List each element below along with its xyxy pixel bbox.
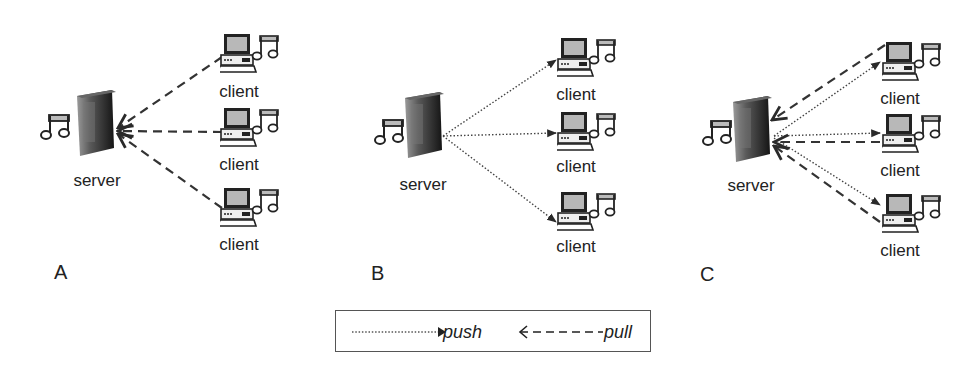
client-label: client	[545, 158, 607, 175]
legend-box: push pull	[335, 310, 651, 352]
client-label: client	[545, 86, 607, 103]
panel-c-pull-lines	[772, 45, 885, 222]
server-label: server	[62, 172, 132, 189]
desktop-computer-icon	[557, 190, 619, 234]
server-tower-icon	[72, 88, 118, 160]
client-label: client	[208, 83, 270, 100]
server-tower-icon	[728, 94, 774, 166]
client-label: client	[208, 236, 270, 253]
server-label: server	[388, 176, 458, 193]
panel-letter: A	[54, 262, 67, 282]
legend-pull-label: pull	[604, 323, 632, 341]
server-tower-icon	[400, 90, 446, 162]
server-label: server	[716, 177, 786, 194]
music-note-icon	[40, 112, 72, 142]
desktop-computer-icon	[882, 192, 944, 236]
client-label: client	[869, 162, 931, 179]
desktop-computer-icon	[220, 32, 282, 76]
panel-letter: B	[371, 263, 384, 283]
client-label: client	[208, 156, 270, 173]
desktop-computer-icon	[220, 106, 282, 150]
client-label: client	[869, 242, 931, 259]
desktop-computer-icon	[557, 110, 619, 154]
pull-arrow-icon	[517, 323, 607, 341]
legend-push-label: push	[443, 323, 482, 341]
panel-a-pull-lines	[118, 57, 222, 208]
desktop-computer-icon	[220, 186, 282, 230]
desktop-computer-icon	[882, 112, 944, 156]
client-label: client	[869, 90, 931, 107]
desktop-computer-icon	[557, 36, 619, 80]
panel-letter: C	[700, 264, 714, 284]
desktop-computer-icon	[882, 40, 944, 84]
client-label: client	[545, 238, 607, 255]
push-arrow-icon	[350, 323, 450, 341]
panel-b-push-lines	[443, 60, 556, 222]
